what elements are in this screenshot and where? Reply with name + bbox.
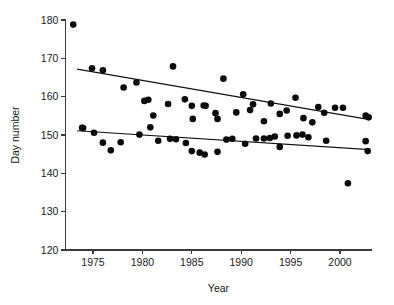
- y-axis-title: Day number: [9, 106, 21, 164]
- data-point: [315, 104, 322, 111]
- data-point: [167, 136, 174, 143]
- data-point: [150, 112, 157, 119]
- data-points-upper-series: [70, 21, 372, 131]
- data-point: [362, 138, 369, 145]
- data-point: [242, 141, 249, 148]
- data-point: [212, 110, 219, 117]
- data-point: [133, 79, 140, 86]
- data-point: [170, 63, 177, 70]
- data-point: [173, 136, 180, 143]
- data-point: [117, 139, 124, 146]
- x-tick-label: 1990: [230, 256, 254, 268]
- data-point: [79, 124, 86, 131]
- data-point: [299, 131, 306, 138]
- data-point: [233, 109, 240, 116]
- y-tick-label: 140: [41, 167, 59, 179]
- data-point: [147, 124, 154, 131]
- data-point: [165, 101, 172, 108]
- data-point: [250, 101, 257, 108]
- data-point: [189, 103, 196, 110]
- data-point: [182, 96, 189, 103]
- data-point: [189, 148, 196, 155]
- data-point: [89, 65, 96, 72]
- data-point: [276, 111, 283, 118]
- y-axis-ticks: 120130140150160170180: [41, 14, 66, 256]
- y-tick-label: 150: [41, 129, 59, 141]
- data-point: [300, 115, 307, 122]
- x-tick-label: 1995: [279, 256, 303, 268]
- data-point: [120, 84, 127, 91]
- data-point: [332, 104, 339, 111]
- data-point: [91, 129, 98, 136]
- chart-canvas: 120130140150160170180 197519801985199019…: [0, 0, 394, 305]
- y-tick-label: 180: [41, 14, 59, 26]
- data-point: [323, 137, 330, 144]
- data-point: [100, 139, 107, 146]
- data-point: [345, 180, 352, 187]
- data-point: [253, 135, 260, 142]
- data-point: [70, 21, 77, 28]
- data-point: [261, 135, 268, 142]
- data-point: [268, 100, 275, 107]
- y-tick-label: 160: [41, 90, 59, 102]
- data-point: [293, 132, 300, 139]
- data-point: [247, 107, 254, 114]
- x-tick-label: 1980: [131, 256, 155, 268]
- data-point: [100, 67, 107, 74]
- data-point: [271, 133, 278, 140]
- y-tick-label: 170: [41, 52, 59, 64]
- data-point: [229, 136, 236, 143]
- data-point: [261, 118, 268, 125]
- data-point: [214, 116, 221, 123]
- data-point: [284, 132, 291, 139]
- data-point: [183, 140, 190, 147]
- data-point: [220, 75, 227, 82]
- x-tick-label: 2000: [328, 256, 352, 268]
- scatter-chart-figure: 120130140150160170180 197519801985199019…: [0, 0, 394, 305]
- data-point: [283, 107, 290, 114]
- data-point: [145, 96, 152, 103]
- x-axis-title: Year: [208, 282, 230, 294]
- data-point: [136, 131, 143, 138]
- x-tick-label: 1975: [81, 256, 105, 268]
- data-point: [240, 91, 247, 98]
- data-point: [202, 103, 209, 110]
- y-tick-label: 130: [41, 205, 59, 217]
- data-point: [309, 119, 316, 126]
- data-point: [321, 109, 328, 116]
- data-point: [155, 137, 162, 144]
- x-axis-ticks: 197519801985199019952000: [81, 250, 352, 268]
- data-point: [189, 116, 196, 123]
- data-point: [364, 148, 371, 155]
- y-tick-label: 120: [41, 244, 59, 256]
- x-tick-label: 1985: [180, 256, 204, 268]
- data-point: [107, 147, 114, 154]
- data-point: [276, 144, 283, 151]
- data-point: [292, 95, 299, 102]
- data-point: [340, 104, 347, 111]
- data-point: [214, 149, 221, 156]
- data-point: [305, 134, 312, 141]
- data-point: [365, 114, 372, 121]
- data-point: [201, 151, 208, 158]
- data-point: [223, 136, 230, 143]
